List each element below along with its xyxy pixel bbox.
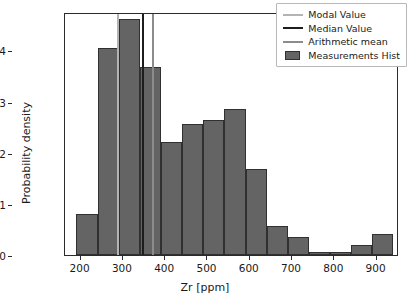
legend-swatch-icon: [282, 22, 303, 35]
y-tick-label: 0.003: [0, 97, 6, 109]
chart-legend: Modal ValueMedian ValueArithmetic meanMe…: [276, 3, 407, 67]
legend-label: Modal Value: [308, 9, 366, 20]
x-tick-label: 200: [70, 262, 90, 274]
x-tick-label: 500: [196, 262, 216, 274]
x-tick-label: 300: [112, 262, 132, 274]
y-tick-mark: [8, 103, 12, 104]
y-tick-mark: [8, 205, 12, 206]
x-tick-mark: [376, 256, 377, 260]
vline-modal-value: [117, 14, 119, 255]
legend-label: Arithmetic mean: [308, 36, 387, 47]
y-tick-mark: [8, 51, 12, 52]
legend-item: Measurements Hist: [282, 49, 400, 63]
y-tick-label: 0.002: [0, 148, 6, 160]
x-tick-label: 700: [281, 262, 301, 274]
vline-arithmetic-mean: [152, 14, 154, 255]
y-tick-label: 0.004: [0, 45, 6, 57]
x-tick-mark: [80, 256, 81, 260]
legend-swatch-icon: [282, 49, 303, 62]
legend-item: Median Value: [282, 22, 400, 36]
x-tick-mark: [122, 256, 123, 260]
y-tick-label: 0.000: [0, 250, 6, 262]
x-tick-label: 400: [154, 262, 174, 274]
x-tick-mark: [164, 256, 165, 260]
legend-item: Arithmetic mean: [282, 35, 400, 49]
legend-label: Measurements Hist: [308, 50, 400, 61]
x-axis-label: Zr [ppm]: [0, 281, 410, 294]
x-tick-mark: [249, 256, 250, 260]
y-tick-mark: [8, 154, 12, 155]
x-tick-mark: [333, 256, 334, 260]
legend-item: Modal Value: [282, 8, 400, 22]
x-tick-mark: [291, 256, 292, 260]
x-tick-label: 600: [239, 262, 259, 274]
legend-swatch-icon: [282, 8, 303, 21]
y-axis-label: Probability density: [20, 73, 33, 233]
x-tick-label: 800: [323, 262, 343, 274]
legend-swatch-icon: [282, 35, 303, 48]
vline-median-value: [142, 14, 144, 255]
y-tick-mark: [8, 256, 12, 257]
y-tick-label: 0.001: [0, 199, 6, 211]
legend-label: Median Value: [308, 23, 372, 34]
chart-figure: 0.0000.0010.0020.0030.004 20030040050060…: [0, 0, 410, 305]
x-tick-mark: [206, 256, 207, 260]
x-tick-label: 900: [366, 262, 386, 274]
